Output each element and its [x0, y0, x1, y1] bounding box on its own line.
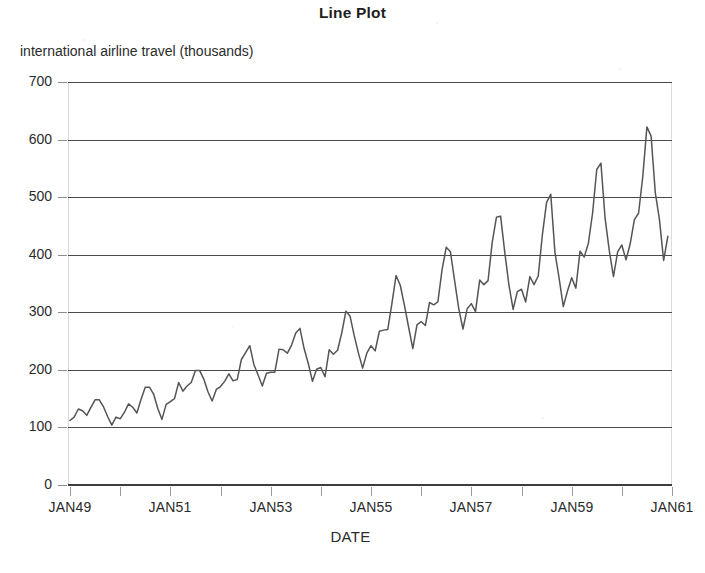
series-line-international-airline-travel — [70, 127, 668, 425]
x-axis-label-text: DATE — [330, 528, 370, 545]
data-series-layer — [0, 0, 705, 573]
x-axis-label: DATE — [0, 528, 705, 545]
line-chart: Line Plot international airline travel (… — [0, 0, 705, 573]
